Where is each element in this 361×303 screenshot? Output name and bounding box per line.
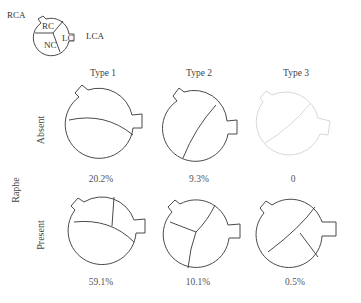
valve-type2-present-icon [163,200,240,268]
pct-type3-present: 0.5% [285,277,305,287]
row-axis-label-raphe: Raphe [10,177,21,203]
column-header-type1: Type 1 [90,68,116,78]
pct-type1-absent: 20.2% [89,174,114,184]
pct-type2-absent: 9.3% [189,174,209,184]
legend-label-nc: NC [44,40,57,50]
legend-label-rca: RCA [7,10,26,20]
pct-type1-present: 59.1% [89,277,114,287]
valve-type3-present-icon [256,199,336,267]
valve-type1-present-icon [68,197,145,265]
valve-type2-absent-icon [162,88,237,161]
pct-type3-absent: 0 [291,174,296,184]
valve-type1-absent-icon [65,85,142,158]
column-header-type2: Type 2 [186,68,212,78]
pct-type2-present: 10.1% [186,277,211,287]
row-label-present: Present [35,220,46,249]
legend-label-rc: RC [42,21,54,31]
valve-type3-absent-icon [256,91,330,155]
row-label-absent: Absent [35,116,46,144]
column-header-type3: Type 3 [283,68,309,78]
legend-label-lc: LC [62,33,74,43]
legend-label-lca: LCA [86,31,104,41]
